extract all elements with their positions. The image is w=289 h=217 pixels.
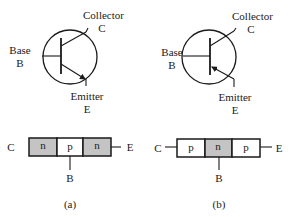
collector-label: Collector bbox=[232, 11, 273, 22]
region-label-p: p bbox=[243, 142, 249, 153]
base-label: Base bbox=[9, 45, 30, 56]
emitter-letter: E bbox=[232, 105, 239, 116]
collector-label: Collector bbox=[83, 10, 124, 21]
block-terminal-e: E bbox=[276, 143, 283, 154]
collector-terminal bbox=[86, 28, 88, 32]
emitter-label: Emitter bbox=[219, 92, 252, 103]
block-terminal-c: C bbox=[154, 143, 161, 154]
transistor-envelope-circle bbox=[43, 30, 97, 84]
block-terminal-b: B bbox=[66, 173, 73, 184]
base-letter: B bbox=[16, 58, 23, 69]
collector-letter: C bbox=[98, 23, 105, 34]
block-terminal-c: C bbox=[7, 142, 14, 153]
npn-transistor-symbol bbox=[42, 28, 97, 86]
block-terminal-e: E bbox=[127, 142, 134, 153]
emitter-letter: E bbox=[84, 104, 91, 115]
emitter-label: Emitter bbox=[71, 91, 104, 102]
region-label-n: n bbox=[215, 141, 221, 152]
base-letter: B bbox=[168, 60, 175, 71]
region-label-n: n bbox=[40, 140, 46, 151]
region-label-p: p bbox=[67, 141, 73, 152]
collector-terminal bbox=[234, 28, 236, 31]
transistor-diagram-canvas bbox=[0, 0, 289, 217]
panel-caption-a: (a) bbox=[64, 199, 76, 210]
block-terminal-b: B bbox=[215, 173, 222, 184]
panel-caption-b: (b) bbox=[213, 199, 226, 210]
collector-lead bbox=[61, 32, 86, 46]
emitter-arrow-outward-icon bbox=[61, 64, 85, 79]
base-label: Base bbox=[161, 47, 182, 58]
region-label-p: p bbox=[188, 142, 194, 153]
collector-letter: C bbox=[247, 24, 254, 35]
pnp-transistor-symbol bbox=[182, 28, 236, 87]
region-label-n: n bbox=[94, 140, 100, 151]
